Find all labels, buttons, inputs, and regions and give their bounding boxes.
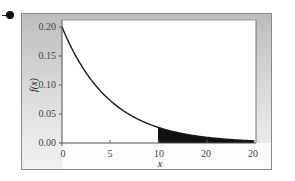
plot-area (62, 20, 256, 143)
y-tick-label: 0.20 (39, 21, 57, 32)
x-axis-title: x (157, 158, 163, 169)
y-tick-label: 0.15 (39, 50, 57, 61)
x-tick-label: 20 (248, 148, 258, 159)
x-tick-label: 20 (201, 148, 211, 159)
y-tick-label: 0.05 (39, 108, 57, 119)
chart: 0.20 0.15 0.10 0.05 0.00 0 5 10 20 20 x … (0, 0, 295, 181)
y-tick-label: 0.10 (39, 79, 57, 90)
x-tick-label: 5 (108, 148, 113, 159)
y-tick-label: 0.00 (39, 137, 57, 148)
y-axis-title: f(x) (28, 77, 40, 92)
x-tick-label: 0 (61, 148, 66, 159)
x-axis-band (62, 143, 271, 169)
